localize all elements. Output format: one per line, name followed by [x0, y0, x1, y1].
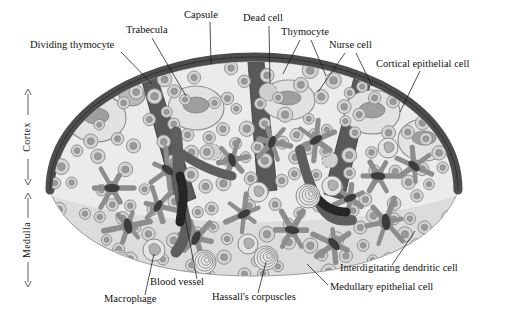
thymocyte [369, 92, 381, 104]
thymocyte [168, 85, 181, 98]
thymocyte [366, 147, 378, 159]
thymocyte [343, 167, 355, 179]
thymocyte [217, 123, 230, 136]
macrophage [238, 234, 258, 254]
label-capsule: Capsule [184, 9, 218, 20]
thymocyte [273, 92, 284, 103]
thymocyte [411, 190, 423, 202]
label-dividing-thymocyte: Dividing thymocyte [30, 39, 115, 50]
thymocyte [238, 268, 251, 281]
thymocyte [221, 92, 234, 105]
thymocyte [353, 108, 366, 121]
thymocyte [337, 100, 351, 114]
thymocyte [326, 73, 342, 89]
thymocyte [217, 250, 231, 264]
label-trabecula: Trabecula [126, 24, 168, 35]
thymocyte [111, 133, 124, 146]
axis-label-cortex: Cortex [21, 122, 32, 152]
thymocyte [259, 227, 275, 243]
thymocyte [203, 131, 215, 143]
thymocyte [349, 127, 361, 139]
thymocyte [260, 68, 274, 82]
thymocyte [269, 198, 281, 210]
thymocyte [94, 211, 105, 222]
label-medullary-epithelial-cell: Medullary epithelial cell [330, 281, 433, 292]
thymocyte [188, 71, 201, 84]
thymocyte [278, 107, 293, 122]
macrophage [143, 239, 165, 261]
region-axis: CortexMedulla [21, 89, 32, 287]
label-blood-vessel: Blood vessel [150, 276, 204, 287]
label-nurse-cell: Nurse cell [329, 39, 372, 50]
thymocyte [143, 113, 155, 125]
thymocyte [294, 77, 309, 92]
thymocyte [184, 167, 199, 182]
thymocyte [437, 162, 448, 173]
thymocyte [75, 239, 89, 253]
label-interdigitating-dendritic-cell: Interdigitating dendritic cell [340, 262, 458, 273]
axis-label-medulla: Medulla [21, 222, 32, 258]
thymocyte [71, 145, 83, 157]
thymocyte [418, 221, 431, 234]
thymocyte [342, 148, 357, 163]
thymocyte [221, 233, 232, 244]
thymocyte [209, 97, 220, 108]
thymocyte [91, 149, 105, 163]
thymocyte [147, 89, 162, 104]
thymocyte [288, 168, 300, 180]
thymocyte [238, 75, 250, 87]
thymocyte [303, 238, 318, 253]
thymocyte [314, 89, 329, 104]
thymocyte [116, 268, 128, 280]
label-dead-cell: Dead cell [243, 12, 283, 23]
thymocyte [84, 134, 98, 148]
thymocyte [205, 202, 218, 215]
label-thymocyte: Thymocyte [281, 26, 329, 37]
hassalls-corpuscle [254, 246, 278, 270]
thymocyte [344, 87, 355, 98]
thymocyte [410, 239, 425, 254]
thymocyte [199, 180, 213, 194]
thymocyte [126, 139, 140, 153]
macrophage [248, 182, 268, 202]
thymocyte [161, 106, 172, 117]
thymocyte [94, 119, 105, 130]
thymocyte [239, 121, 254, 136]
thymocyte [427, 236, 441, 250]
thymocyte [224, 61, 237, 74]
thymocyte [180, 94, 191, 105]
thymocyte [357, 240, 369, 252]
thymocyte [275, 174, 288, 187]
thymocyte [254, 98, 266, 110]
thymocyte [139, 184, 150, 195]
thymocyte [424, 179, 435, 190]
thymocyte [101, 235, 112, 246]
thymocyte [303, 113, 314, 124]
thymocyte [420, 133, 433, 146]
thymocyte [340, 116, 351, 127]
axis-region-medulla: Medulla [21, 193, 32, 287]
thymocyte [133, 267, 146, 280]
macrophage [378, 138, 398, 158]
thymocyte [124, 200, 136, 212]
thymocyte [79, 208, 90, 219]
thymus-lobule-diagram: CortexMedulla Dividing thymocyteTrabecul… [0, 0, 508, 320]
thymocyte [231, 103, 242, 114]
hassalls-corpuscle [296, 184, 320, 208]
axis-region-cortex: Cortex [21, 89, 32, 185]
thymocyte [118, 97, 130, 109]
thymocyte [60, 226, 73, 239]
thymocyte [66, 177, 77, 188]
thymocyte [404, 213, 416, 225]
thymocyte [401, 126, 414, 139]
thymocyte [442, 211, 456, 225]
label-macrophage: Macrophage [104, 293, 157, 304]
macrophage [322, 176, 342, 196]
thymocyte [200, 145, 214, 159]
label-cortical-epithelial-cell: Cortical epithelial cell [376, 58, 469, 69]
thymocyte [192, 207, 203, 218]
figure-canvas: CortexMedulla Dividing thymocyteTrabecul… [0, 0, 508, 320]
thymocyte [181, 129, 194, 142]
label-hassalls-corpuscles: Hassall's corpuscles [212, 291, 296, 302]
